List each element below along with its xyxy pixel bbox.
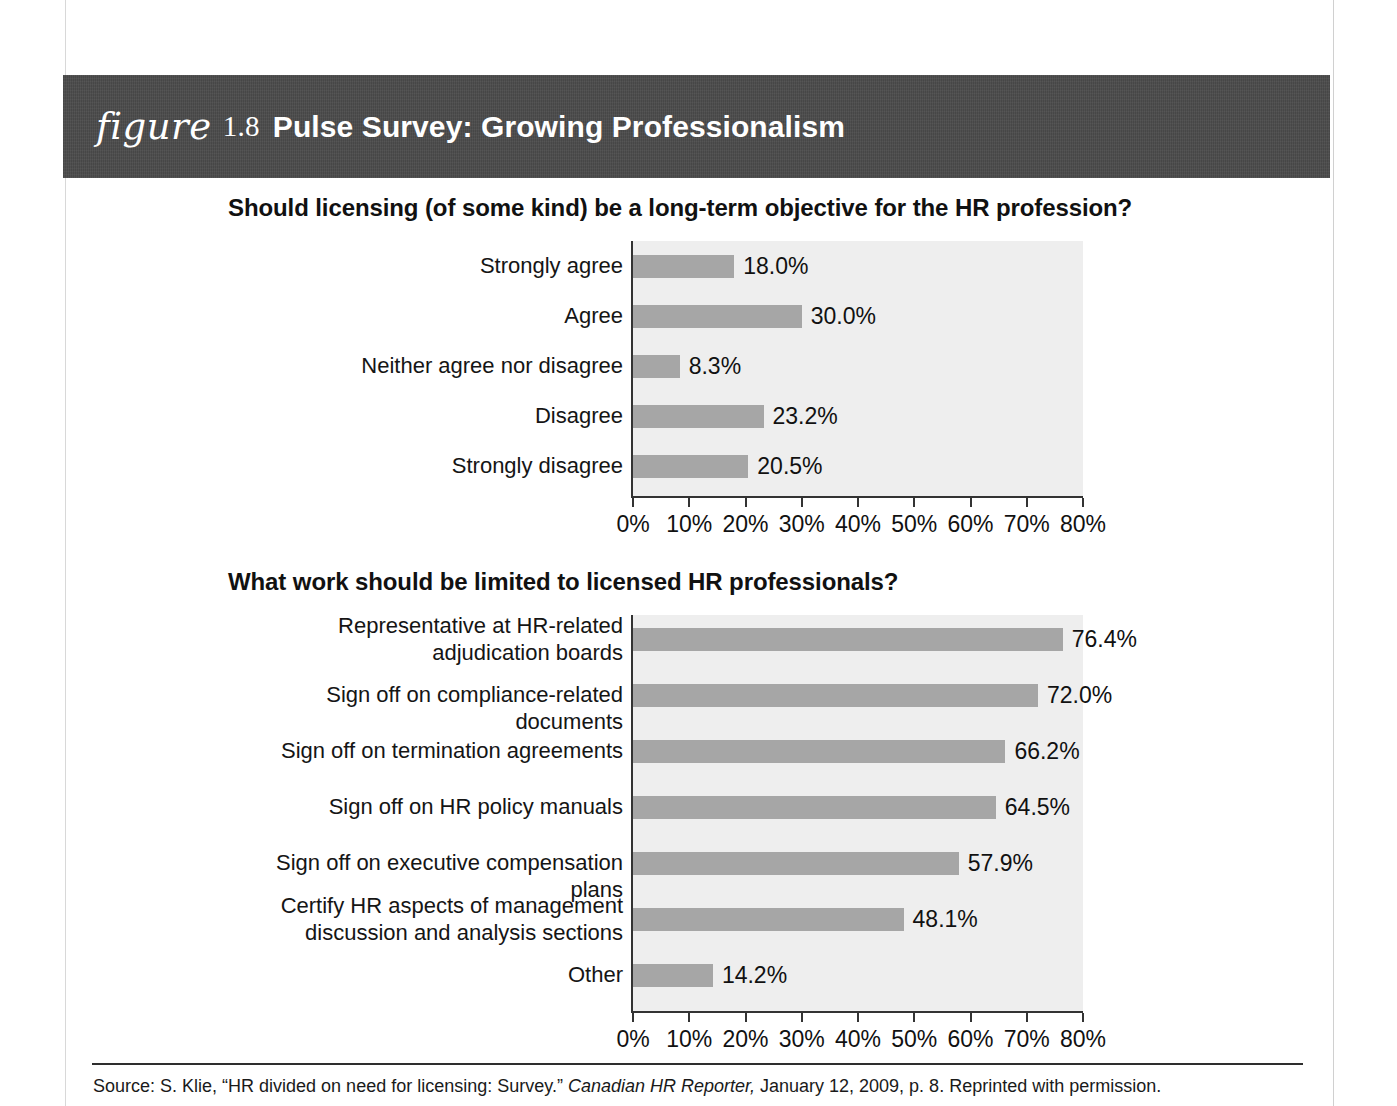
x-axis-tick [801,1013,803,1022]
bar [633,796,996,819]
y-axis-line [631,615,633,1011]
bar [633,852,959,875]
bar [633,628,1063,651]
bar-value-label: 20.5% [757,453,822,480]
category-label: Agree [223,302,623,329]
category-label: Certify HR aspects of management discuss… [223,892,623,946]
bar [633,255,734,278]
bar-value-label: 76.4% [1072,626,1137,653]
x-axis-tick [632,1013,634,1022]
x-axis-tick-label: 50% [891,511,937,538]
x-axis-tick-label: 50% [891,1026,937,1053]
bar-value-label: 23.2% [773,403,838,430]
category-label: Strongly disagree [223,452,623,479]
x-axis-tick-label: 10% [666,511,712,538]
x-axis-tick-label: 20% [722,511,768,538]
x-axis-tick [970,498,972,507]
source-publication: Canadian HR Reporter, [568,1076,755,1096]
x-axis-tick-label: 40% [835,1026,881,1053]
x-axis-tick-label: 10% [666,1026,712,1053]
x-axis-tick-label: 0% [616,511,649,538]
bar [633,908,904,931]
chart-1-question-title: Should licensing (of some kind) be a lon… [228,194,1132,222]
category-label: Representative at HR-related adjudicatio… [223,612,623,666]
source-citation: Source: S. Klie, “HR divided on need for… [93,1076,1161,1097]
x-axis-tick [632,498,634,507]
category-label: Sign off on compliance-related documents [223,681,623,735]
figure-header-text: figure 1.8 Pulse Survey: Growing Profess… [96,75,845,178]
x-axis-tick [688,1013,690,1022]
bar-value-label: 18.0% [743,253,808,280]
x-axis-tick-label: 70% [1004,1026,1050,1053]
x-axis-tick [1082,1013,1084,1022]
x-axis-tick [913,498,915,507]
category-label: Other [223,961,623,988]
x-axis-tick [1026,1013,1028,1022]
category-label: Sign off on HR policy manuals [223,793,623,820]
bar-value-label: 48.1% [913,906,978,933]
bar-value-label: 72.0% [1047,682,1112,709]
bar-value-label: 66.2% [1014,738,1079,765]
bar [633,740,1005,763]
bar [633,455,748,478]
bar-value-label: 57.9% [968,850,1033,877]
bar [633,684,1038,707]
x-axis-tick [857,1013,859,1022]
source-divider [92,1063,1303,1065]
category-label: Neither agree nor disagree [223,352,623,379]
x-axis-tick-label: 0% [616,1026,649,1053]
x-axis-tick-label: 30% [779,1026,825,1053]
x-axis-tick-label: 80% [1060,511,1106,538]
x-axis-tick [688,498,690,507]
chart-2-question-title: What work should be limited to licensed … [228,568,898,596]
x-axis-tick [745,498,747,507]
bar [633,405,764,428]
figure-header-band: figure 1.8 Pulse Survey: Growing Profess… [63,75,1330,178]
page-edge-right [1333,0,1334,1106]
x-axis-tick [857,498,859,507]
bar-value-label: 30.0% [811,303,876,330]
x-axis-tick [801,498,803,507]
x-axis-tick [1026,498,1028,507]
figure-word: figure [96,105,212,148]
figure-title: Pulse Survey: Growing Professionalism [273,110,845,144]
bar [633,964,713,987]
category-label: Strongly agree [223,252,623,279]
x-axis-tick-label: 40% [835,511,881,538]
category-label: Sign off on termination agreements [223,737,623,764]
x-axis-tick-label: 70% [1004,511,1050,538]
category-label: Disagree [223,402,623,429]
y-axis-line [631,241,633,496]
bar [633,305,802,328]
x-axis-tick [970,1013,972,1022]
bar-value-label: 64.5% [1005,794,1070,821]
x-axis-tick [745,1013,747,1022]
x-axis-tick [913,1013,915,1022]
x-axis-tick-label: 30% [779,511,825,538]
x-axis-tick-label: 20% [722,1026,768,1053]
figure-number: 1.8 [223,110,260,143]
bar [633,355,680,378]
bar-value-label: 14.2% [722,962,787,989]
bar-value-label: 8.3% [689,353,741,380]
source-prefix: Source: S. Klie, “HR divided on need for… [93,1076,568,1096]
x-axis-tick-label: 80% [1060,1026,1106,1053]
x-axis-tick-label: 60% [947,511,993,538]
x-axis-tick [1082,498,1084,507]
source-suffix: January 12, 2009, p. 8. Reprinted with p… [755,1076,1161,1096]
x-axis-tick-label: 60% [947,1026,993,1053]
